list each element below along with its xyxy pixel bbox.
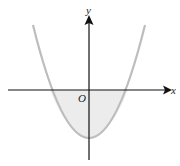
parabola-diagram: y x O (0, 0, 180, 166)
y-axis-label: y (85, 4, 91, 16)
origin-label: O (78, 92, 86, 104)
x-axis-label: x (170, 84, 176, 96)
